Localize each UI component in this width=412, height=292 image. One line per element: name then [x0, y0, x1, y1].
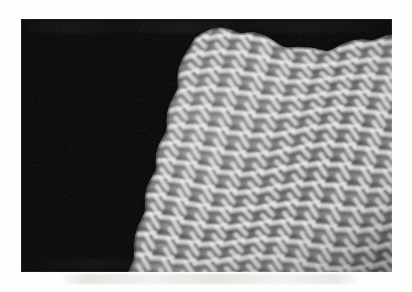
scan-grain-overlay	[21, 19, 392, 272]
stm-surface-plot	[21, 19, 392, 272]
figure-page	[0, 0, 412, 292]
figure-plate	[21, 19, 392, 272]
scan-ghost-text-artifact	[60, 274, 360, 284]
